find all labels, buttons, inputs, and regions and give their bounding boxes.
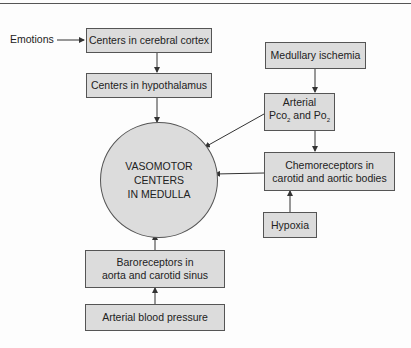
arterial-bp-label: Arterial blood pressure (102, 311, 208, 324)
gases-line1: Arterial (283, 96, 316, 109)
chemoreceptors-line2: carotid and aortic bodies (272, 172, 386, 185)
node-cerebral-cortex: Centers in cerebral cortex (86, 28, 212, 53)
chemoreceptors-line1: Chemoreceptors in (285, 159, 374, 172)
node-hypothalamus: Centers in hypothalamus (86, 73, 212, 98)
ischemia-label: Medullary ischemia (271, 49, 361, 62)
diagram-canvas: Emotions Centers in cerebral cortex Cent… (0, 0, 411, 348)
node-hypoxia: Hypoxia (263, 212, 317, 238)
baroreceptors-line1: Baroreceptors in (116, 256, 193, 269)
baroreceptors-line2: aorta and carotid sinus (102, 269, 208, 282)
node-hypothalamus-label: Centers in hypothalamus (91, 79, 207, 92)
emotions-label: Emotions (10, 33, 54, 45)
gases-line2: Pco2 and Po2 (269, 109, 330, 127)
node-medullary-ischemia: Medullary ischemia (265, 42, 366, 69)
node-chemoreceptors: Chemoreceptors in carotid and aortic bod… (264, 152, 395, 191)
node-arterial-gases: Arterial Pco2 and Po2 (264, 93, 335, 131)
node-vasomotor-centers: VASOMOTOR CENTERS IN MEDULLA (100, 122, 218, 238)
hypoxia-label: Hypoxia (271, 219, 309, 232)
node-arterial-blood-pressure: Arterial blood pressure (85, 304, 225, 331)
node-baroreceptors: Baroreceptors in aorta and carotid sinus (85, 250, 225, 288)
vasomotor-line1: VASOMOTOR CENTERS (101, 159, 217, 187)
node-cerebral-cortex-label: Centers in cerebral cortex (89, 34, 209, 47)
vasomotor-line2: IN MEDULLA (127, 187, 190, 201)
